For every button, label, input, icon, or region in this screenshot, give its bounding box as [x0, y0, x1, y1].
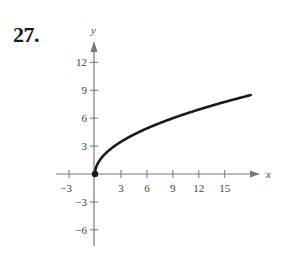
y-tick-label: 12: [76, 56, 87, 68]
function-graph: xy −3369121512963−3−6: [0, 0, 287, 262]
y-tick-label: −6: [75, 224, 87, 236]
y-tick-label: 9: [82, 84, 88, 96]
y-axis-label: y: [90, 24, 96, 36]
x-tick-label: 15: [219, 182, 231, 194]
x-axis-arrow-icon: [250, 171, 260, 178]
x-tick-label: 6: [144, 182, 150, 194]
y-axis-arrow-icon: [91, 41, 98, 52]
curve-line: [95, 95, 251, 174]
tick-labels: −3369121512963−3−6: [60, 56, 231, 235]
y-tick-label: 6: [82, 112, 88, 124]
x-tick-label: 9: [170, 182, 176, 194]
tick-marks: [69, 62, 225, 229]
axes: xy: [56, 24, 271, 246]
x-axis-label: x: [265, 168, 271, 180]
endpoint-dot: [92, 171, 98, 177]
y-tick-label: 3: [82, 140, 88, 152]
x-tick-label: 12: [193, 182, 204, 194]
y-tick-label: −3: [75, 196, 87, 208]
x-tick-label: −3: [60, 182, 72, 194]
x-tick-label: 3: [118, 182, 124, 194]
